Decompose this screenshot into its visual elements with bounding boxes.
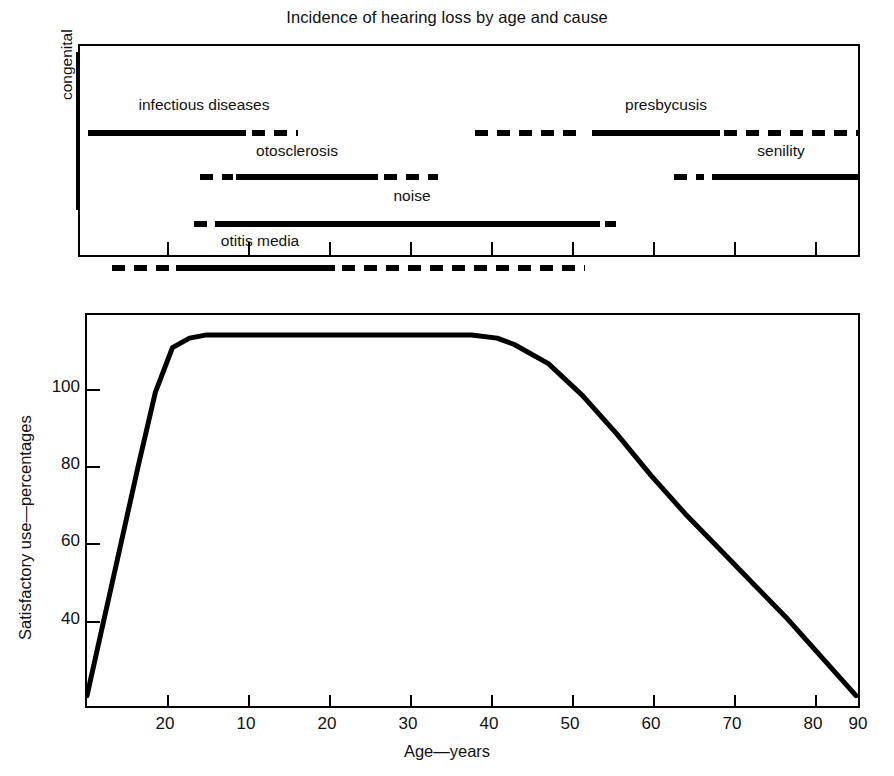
top-xtick (491, 242, 493, 255)
xtick-mark (815, 695, 817, 708)
ytick-label: 40 (36, 609, 80, 629)
top-xtick (329, 242, 331, 255)
yaxis-title: Satisfactory use—percentages (16, 415, 35, 640)
incidence-bar-noise (80, 221, 858, 227)
xtick-label: 20 (318, 714, 337, 734)
ytick-mark (87, 389, 100, 391)
bar-segment-solid (712, 174, 860, 180)
incidence-bar-otitis-media (80, 265, 858, 271)
xtick-mark (653, 695, 655, 708)
satisfactory-use-panel (85, 313, 860, 708)
congenital-axis-label: congenital (58, 29, 76, 100)
xtick-label: 70 (723, 714, 742, 734)
curve-polyline (87, 335, 856, 696)
xtick-label: 90 (849, 714, 868, 734)
incidence-bar-senility (80, 174, 858, 180)
ytick-label: 60 (36, 531, 80, 551)
ytick-label: 100 (36, 377, 80, 397)
bar-segment-dashed (674, 174, 704, 180)
top-xtick (248, 242, 250, 255)
xtick-label: 10 (237, 714, 256, 734)
xtick-mark (734, 695, 736, 708)
bar-label-noise: noise (393, 187, 430, 205)
xtick-label: 50 (561, 714, 580, 734)
ytick-mark (87, 543, 100, 545)
xtick-mark (491, 695, 493, 708)
xtick-mark (329, 695, 331, 708)
top-xtick (653, 242, 655, 255)
top-xtick (734, 242, 736, 255)
figure-hearing-loss: Incidence of hearing loss by age and cau… (0, 0, 894, 776)
bar-label-otosclerosis: otosclerosis (256, 142, 338, 160)
bar-label-otitis-media: otitis media (221, 232, 299, 250)
xtick-label: 40 (480, 714, 499, 734)
bar-segment-dashed (112, 265, 172, 271)
bar-segment-solid (592, 130, 720, 136)
xtick-label: 80 (804, 714, 823, 734)
top-xtick (572, 242, 574, 255)
figure-title: Incidence of hearing loss by age and cau… (0, 8, 894, 27)
bar-segment-solid (215, 221, 600, 227)
xtick-mark (248, 695, 250, 708)
bar-label-infectious-diseases: infectious diseases (139, 96, 270, 114)
xtick-mark (572, 695, 574, 708)
bar-segment-dashed (342, 265, 585, 271)
xtick-mark (410, 695, 412, 708)
ytick-mark (87, 621, 100, 623)
xtick-label: 30 (399, 714, 418, 734)
xtick-mark (167, 695, 169, 708)
incidence-bar-presbycusis (80, 130, 858, 136)
top-xtick (167, 242, 169, 255)
bar-segment-dashed (724, 130, 860, 136)
top-xtick (410, 242, 412, 255)
top-xtick (815, 242, 817, 255)
xtick-label: 60 (642, 714, 661, 734)
ytick-label: 80 (36, 454, 80, 474)
bar-label-presbycusis: presbycusis (625, 96, 707, 114)
bar-segment-dashed (194, 221, 208, 227)
xaxis-title: Age—years (0, 742, 894, 761)
bar-segment-dashed (475, 130, 581, 136)
bar-segment-dashed (605, 221, 616, 227)
xtick-label: 20 (156, 714, 175, 734)
ytick-mark (87, 466, 100, 468)
bar-label-senility: senility (757, 142, 804, 160)
incidence-timeline-panel: infectious diseasesotosclerosisnoiseotit… (78, 44, 860, 257)
bar-segment-solid (176, 265, 335, 271)
satisfactory-use-curve (87, 315, 858, 706)
